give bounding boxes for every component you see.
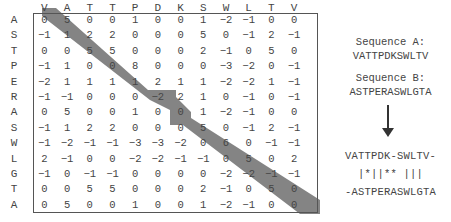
matrix-cell: −1 <box>283 59 306 74</box>
matrix-cell: −1 <box>237 13 260 28</box>
matrix-cell: 0 <box>169 121 192 136</box>
dot-plot-matrix: VATTPDKSWLTV ASTPERASWLGTA 05001001−2−10… <box>0 0 330 222</box>
matrix-cell: 0 <box>147 44 170 59</box>
matrix-cell: 1 <box>124 13 147 28</box>
matrix-cell: 5 <box>56 105 79 120</box>
matrix-cell: 0 <box>56 182 79 197</box>
matrix-cell: 0 <box>33 13 56 28</box>
aligned-sequence-a: VATTPDK-SWLTV- <box>330 150 451 162</box>
row-header: A <box>6 14 22 26</box>
matrix-cell: −1 <box>33 136 56 151</box>
row-header: L <box>6 153 22 165</box>
matrix-cell: −1 <box>215 44 238 59</box>
matrix-cell: 0 <box>169 182 192 197</box>
matrix-cell: 5 <box>192 28 215 43</box>
matrix-cell: 0 <box>283 198 306 213</box>
matrix-cell: 0 <box>169 198 192 213</box>
matrix-cell: 0 <box>260 13 283 28</box>
matrix-cell: 5 <box>101 44 124 59</box>
matrix-cell: −1 <box>260 136 283 151</box>
matrix-cell: 2 <box>78 28 101 43</box>
matrix-cell: −1 <box>237 105 260 120</box>
matrix-cell: 0 <box>78 105 101 120</box>
matrix-cell: −2 <box>237 167 260 182</box>
matrix-cell: −3 <box>147 136 170 151</box>
matrix-cell: −2 <box>237 59 260 74</box>
matrix-cell: −1 <box>237 121 260 136</box>
matrix-cell: 0 <box>169 13 192 28</box>
matrix-cell: 1 <box>192 90 215 105</box>
matrix-cell: −1 <box>283 28 306 43</box>
matrix-cell: −1 <box>237 198 260 213</box>
matrix-cell: 0 <box>147 28 170 43</box>
matrix-cell: 2 <box>101 121 124 136</box>
matrix-cell: −1 <box>283 75 306 90</box>
matrix-cell: 0 <box>237 182 260 197</box>
row-header: P <box>6 60 22 72</box>
matrix-cell: 0 <box>147 198 170 213</box>
matrix-cell: −1 <box>78 167 101 182</box>
matrix-cell: 5 <box>260 182 283 197</box>
matrix-cell: 2 <box>78 121 101 136</box>
sequence-b: ASTPERASWLGTA <box>330 86 451 98</box>
matrix-cell: 1 <box>169 75 192 90</box>
matrix-cell: 0 <box>101 105 124 120</box>
matrix-cell: −1 <box>192 152 215 167</box>
matrix-cell: −1 <box>215 182 238 197</box>
matrix-cell: 0 <box>124 167 147 182</box>
row-header: R <box>6 91 22 103</box>
matrix-cell: −2 <box>147 90 170 105</box>
matrix-cell: 0 <box>215 90 238 105</box>
matrix-cell: −1 <box>101 167 124 182</box>
matrix-cell: −2 <box>56 136 79 151</box>
matrix-cell: −1 <box>33 121 56 136</box>
matrix-cell: 1 <box>192 75 215 90</box>
row-header: S <box>6 29 22 41</box>
matrix-cell: 0 <box>101 90 124 105</box>
matrix-cell: 0 <box>169 59 192 74</box>
matrix-cell: 1 <box>260 75 283 90</box>
matrix-cell: 0 <box>215 28 238 43</box>
matrix-cell: 8 <box>124 59 147 74</box>
matrix-cell: 0 <box>192 167 215 182</box>
matrix-cell: 5 <box>237 152 260 167</box>
matrix-cell: 1 <box>192 105 215 120</box>
matrix-cell: 5 <box>78 182 101 197</box>
matrix-cell: 0 <box>147 13 170 28</box>
matrix-cell: 0 <box>101 59 124 74</box>
matrix-cell: −2 <box>124 152 147 167</box>
matrix-cell: 0 <box>101 13 124 28</box>
row-header: E <box>6 76 22 88</box>
matrix-cell: 2 <box>260 121 283 136</box>
matrix-cell: 0 <box>147 182 170 197</box>
matrix-cell: 2 <box>101 28 124 43</box>
matrix-cell: 0 <box>33 44 56 59</box>
matrix-cell: 0 <box>101 152 124 167</box>
matrix-cell: −2 <box>147 152 170 167</box>
row-header: S <box>6 122 22 134</box>
matrix-cell: −1 <box>33 90 56 105</box>
matrix-cell: 0 <box>192 136 215 151</box>
matrix-cell: 0 <box>169 167 192 182</box>
matrix-cell: 2 <box>33 152 56 167</box>
aligned-sequence-b: -ASTPERASWLGTA <box>330 186 451 198</box>
matrix-cell: −1 <box>283 90 306 105</box>
matrix-cell: −2 <box>215 75 238 90</box>
matrix-cell: 0 <box>260 105 283 120</box>
matrix-cell: 5 <box>56 198 79 213</box>
matrix-cell: −3 <box>215 59 238 74</box>
matrix-cell: 1 <box>124 198 147 213</box>
matrix-cell: 0 <box>33 105 56 120</box>
matrix-cell: 0 <box>124 121 147 136</box>
matrix-cell: −2 <box>33 75 56 90</box>
matrix-cell: 0 <box>260 59 283 74</box>
matrix-cell: 5 <box>192 121 215 136</box>
matrix-cell: −1 <box>283 167 306 182</box>
matrix-cell: 0 <box>192 59 215 74</box>
matrix-cell: −1 <box>33 167 56 182</box>
matrix-cell: −1 <box>237 28 260 43</box>
row-header: A <box>6 106 22 118</box>
matrix-cell: −1 <box>283 136 306 151</box>
matrix-cell: 0 <box>215 152 238 167</box>
matrix-cell: 5 <box>78 44 101 59</box>
